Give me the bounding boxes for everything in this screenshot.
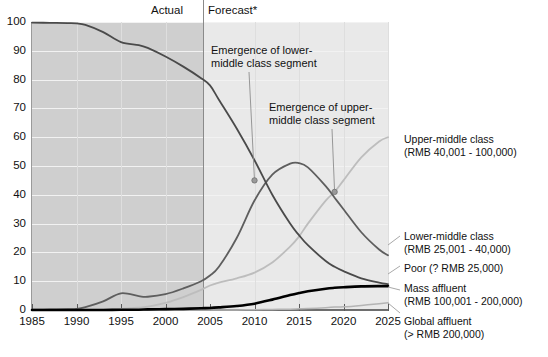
legend-mass-affluent-range: (RMB 100,001 - 200,000) — [404, 295, 522, 308]
x-tick-2025 — [388, 304, 389, 311]
legend-leader-line-poor — [388, 266, 400, 274]
annotation-lower-middle: Emergence of lower- middle class segment — [211, 44, 386, 70]
legend-poor-name: Poor (? RMB 25,000) — [404, 262, 503, 275]
annotation-lower-middle-line1: Emergence of lower- — [211, 44, 386, 57]
y-tick-label-60: 60 — [0, 131, 26, 143]
actual-forecast-divider — [203, 0, 204, 310]
annotation-upper-middle-line2: middle class segment — [269, 114, 444, 127]
legend-upper-middle-class-range: (RMB 40,001 - 100,000) — [404, 146, 517, 159]
y-tick-label-0: 0 — [0, 304, 26, 316]
x-tick-label-2000: 2000 — [146, 315, 186, 327]
legend-leader-line-lower_middle — [388, 236, 400, 245]
forecast-header-label: Forecast* — [208, 4, 257, 17]
y-tick-label-90: 90 — [0, 45, 26, 57]
actual-header-label: Actual — [151, 4, 183, 17]
y-tick-label-100: 100 — [0, 16, 26, 28]
y-tick-label-40: 40 — [0, 189, 26, 201]
annotation-upper-middle-line1: Emergence of upper- — [269, 101, 444, 114]
legend-mass-affluent-name: Mass affluent — [404, 282, 522, 295]
annotation-upper-middle: Emergence of upper- middle class segment — [269, 101, 444, 127]
legend-upper-middle-class: Upper-middle class (RMB 40,001 - 100,000… — [404, 133, 517, 158]
x-tick-label-1995: 1995 — [101, 315, 141, 327]
x-tick-label-1985: 1985 — [12, 315, 52, 327]
legend-mass-affluent: Mass affluent (RMB 100,001 - 200,000) — [404, 282, 522, 307]
x-tick-label-2020: 2020 — [324, 315, 364, 327]
y-tick-label-20: 20 — [0, 246, 26, 258]
y-tick-label-50: 50 — [0, 160, 26, 172]
x-tick-label-1990: 1990 — [57, 315, 97, 327]
x-tick-label-2005: 2005 — [190, 315, 230, 327]
legend-global-affluent: Global affluent (> RMB 200,000) — [404, 315, 484, 340]
y-tick-label-10: 10 — [0, 275, 26, 287]
x-tick-label-2010: 2010 — [235, 315, 275, 327]
annotation-lower-middle-line2: middle class segment — [211, 57, 386, 70]
y-tick-label-80: 80 — [0, 74, 26, 86]
y-tick-label-70: 70 — [0, 102, 26, 114]
x-tick-label-2015: 2015 — [279, 315, 319, 327]
legend-poor: Poor (? RMB 25,000) — [404, 262, 503, 275]
legend-lower-middle-class-name: Lower-middle class — [404, 230, 511, 243]
legend-lower-middle-class-range: (RMB 25,001 - 40,000) — [404, 243, 511, 256]
gridline-x-2025 — [388, 22, 389, 310]
legend-leader-line-global_affluent — [388, 303, 400, 313]
x-tick-label-2025: 2025 — [368, 315, 408, 327]
y-tick-label-30: 30 — [0, 218, 26, 230]
legend-global-affluent-range: (> RMB 200,000) — [404, 328, 484, 341]
legend-lower-middle-class: Lower-middle class (RMB 25,001 - 40,000) — [404, 230, 511, 255]
chart-root: 0102030405060708090100 19851990199520002… — [0, 0, 548, 357]
legend-global-affluent-name: Global affluent — [404, 315, 484, 328]
legend-leader-line-mass_affluent — [388, 287, 400, 290]
legend-upper-middle-class-name: Upper-middle class — [404, 133, 517, 146]
